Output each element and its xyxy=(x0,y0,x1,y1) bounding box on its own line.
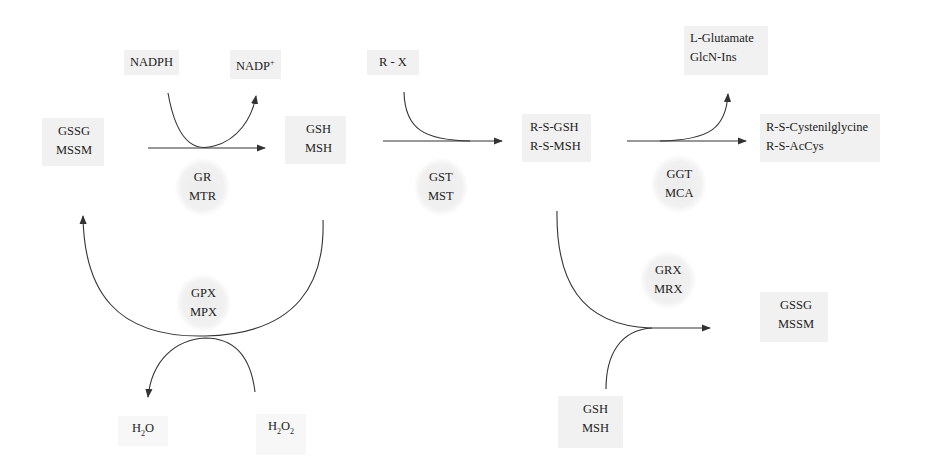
enzyme-gpx-mpx: GPX MPX xyxy=(176,274,231,332)
arrow-h2o2-to-h2o xyxy=(148,338,255,397)
pathway-diagram: NADPH NADP+ R - X GSSG MSSM GSH MSH R-S-… xyxy=(0,0,935,474)
gsh-msh-top-box: GSH MSH xyxy=(285,116,346,164)
gsh-msh-bottom-box: GSH MSH xyxy=(558,396,623,448)
nadp-plus-label: NADP+ xyxy=(236,53,275,76)
enzyme-ggt-mca: GGT MCA xyxy=(651,155,707,213)
enzyme-gst-mst: GST MST xyxy=(414,158,468,216)
h2o-box: H2O xyxy=(118,416,168,446)
arrow-gsh-joins-grx xyxy=(606,328,652,389)
enzyme-gr-mtr: GR MTR xyxy=(175,158,230,216)
nadph-label: NADPH xyxy=(130,53,173,72)
nadph-box: NADPH xyxy=(124,50,179,75)
r-x-label: R - X xyxy=(379,53,407,72)
enzyme-grx-mrx: GRX MRX xyxy=(640,251,696,309)
rs-gsh-msh-box: R-S-GSH R-S-MSH xyxy=(522,114,591,162)
h2o2-box: H2O2 xyxy=(256,414,306,455)
gssg-mssm-left-box: GSSG MSSM xyxy=(42,118,104,166)
arrow-to-lglutamate xyxy=(660,94,728,141)
nadp-plus-box: NADP+ xyxy=(230,50,281,79)
h2o2-label: H2O2 xyxy=(268,417,294,441)
arrow-nadph-to-nadp xyxy=(168,93,256,147)
rs-cys-accys-box: R-S-Cystenilglycine R-S-AcCys xyxy=(760,114,880,162)
r-x-box: R - X xyxy=(367,50,419,75)
arrow-rx-joins xyxy=(404,92,470,141)
gssg-mssm-right-box: GSSG MSSM xyxy=(760,292,828,342)
h2o-label: H2O xyxy=(132,419,154,443)
lglutamate-glcnins-box: L-Glutamate GlcN-Ins xyxy=(684,26,768,75)
